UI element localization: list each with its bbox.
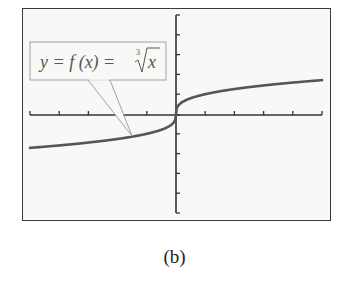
root-index: 3: [136, 48, 140, 57]
callout-label: y = f (x) =: [38, 52, 115, 73]
callout-lhs: y = f (x) =: [38, 52, 115, 73]
plot-area: y = f (x) = 3 x: [0, 0, 349, 285]
callout-pointer: [88, 80, 132, 136]
figure-caption: (b): [0, 246, 349, 268]
radicand: x: [147, 52, 156, 72]
